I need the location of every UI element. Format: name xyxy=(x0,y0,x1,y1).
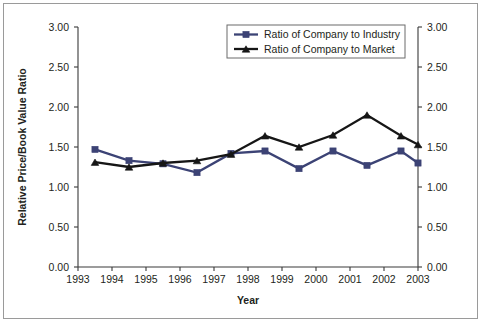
data-point-marker xyxy=(126,158,132,164)
legend-entry-label: Ratio of Company to Industry xyxy=(264,28,401,40)
y-axis-left-tick-label: 3.00 xyxy=(49,21,70,33)
chart-figure: 0.000.501.001.502.002.503.00 0.000.501.0… xyxy=(0,0,481,322)
y-axis-right-tick-label: 0.00 xyxy=(427,261,448,273)
y-axis-left-tick-label: 0.00 xyxy=(49,261,70,273)
x-axis-tick-label: 1995 xyxy=(134,273,158,285)
y-axis-right-labels: 0.000.501.001.502.002.503.00 xyxy=(427,21,448,273)
x-axis-tick-label: 1998 xyxy=(236,273,260,285)
x-axis-tick-label: 2002 xyxy=(372,273,396,285)
y-axis-right-tick-label: 0.50 xyxy=(427,221,448,233)
data-point-marker xyxy=(262,148,268,154)
legend-entry-label: Ratio of Company to Market xyxy=(264,43,395,55)
series-line xyxy=(95,149,418,172)
x-axis-labels: 1993199419951996199719981999200020012002… xyxy=(66,273,430,285)
data-point-marker xyxy=(296,166,302,172)
chart-legend: Ratio of Company to IndustryRatio of Com… xyxy=(227,25,405,58)
y-axis-left-tick-label: 1.00 xyxy=(49,181,70,193)
x-axis-ticks xyxy=(78,267,418,271)
y-axis-right-tick-label: 2.00 xyxy=(427,101,448,113)
x-axis-title: Year xyxy=(237,294,259,306)
x-axis-tick-label: 2001 xyxy=(338,273,362,285)
x-axis-tick-label: 1996 xyxy=(168,273,192,285)
data-point-marker xyxy=(194,170,200,176)
data-point-marker xyxy=(415,160,421,166)
x-axis-tick-label: 1994 xyxy=(100,273,124,285)
data-point-marker xyxy=(330,148,336,154)
x-axis-tick-label: 2000 xyxy=(304,273,328,285)
y-axis-right-tick-label: 1.00 xyxy=(427,181,448,193)
y-axis-right-tick-label: 3.00 xyxy=(427,21,448,33)
series-company-to-industry xyxy=(92,146,421,175)
data-point-marker xyxy=(364,162,370,168)
y-axis-title: Relative Price/Book Value Ratio xyxy=(16,68,28,226)
data-series-layer xyxy=(91,112,422,176)
y-axis-right-tick-label: 1.50 xyxy=(427,141,448,153)
x-axis-tick-label: 1999 xyxy=(270,273,294,285)
data-point-marker xyxy=(363,112,371,118)
y-axis-right-tick-label: 2.50 xyxy=(427,61,448,73)
y-axis-left-tick-label: 1.50 xyxy=(49,141,70,153)
y-axis-left-tick-label: 2.50 xyxy=(49,61,70,73)
data-point-marker xyxy=(92,146,98,152)
data-point-marker xyxy=(398,148,404,154)
y-axis-left-labels: 0.000.501.001.502.002.503.00 xyxy=(49,21,70,273)
y-axis-left-ticks xyxy=(74,27,78,267)
legend-marker xyxy=(243,31,249,37)
x-axis-tick-label: 2003 xyxy=(406,273,430,285)
series-line xyxy=(95,115,418,167)
x-axis-tick-label: 1993 xyxy=(66,273,90,285)
y-axis-left-tick-label: 0.50 xyxy=(49,221,70,233)
plot-container: 0.000.501.001.502.002.503.00 0.000.501.0… xyxy=(0,0,481,322)
x-axis-tick-label: 1997 xyxy=(202,273,226,285)
y-axis-left-tick-label: 2.00 xyxy=(49,101,70,113)
line-chart: 0.000.501.001.502.002.503.00 0.000.501.0… xyxy=(0,0,481,322)
